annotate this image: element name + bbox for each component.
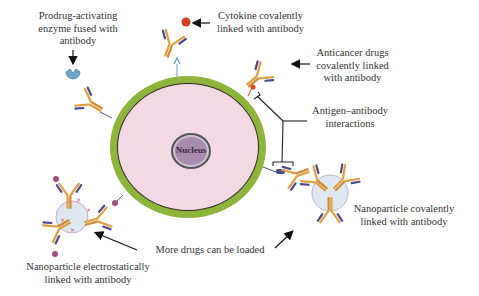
svg-text:×: × [70,226,75,233]
label-nanoparticle-electrostatic: Nanoparticle electrostatically linked wi… [18,261,158,286]
label-prodrug-enzyme: Prodrug-activating enzyme fused with ant… [28,10,128,48]
cytokine-antibody [153,18,210,78]
svg-text:×: × [60,216,65,223]
anticancer-drug-antibody [238,58,310,96]
nanoparticle-electrostatic: × × × × [40,176,137,257]
nucleus-label: Nucleus [171,145,211,155]
cytokine-icon [182,18,191,27]
label-antigen-antibody: Antigen–antibody interactions [305,105,395,130]
cell-surface-antibody-right [263,157,314,192]
svg-text:×: × [86,206,91,213]
label-anticancer-drugs: Anticancer drugs covalently linked with … [305,47,400,85]
enzyme-icon [66,69,80,79]
label-more-drugs: More drugs can be loaded [140,244,280,257]
diagram-canvas: × × × × Prodrug-activating enzyme fused … [0,0,479,296]
svg-text:×: × [76,196,81,203]
prodrug-enzyme-antibody [66,50,112,122]
label-nanoparticle-covalent: Nanoparticle covalently linked with anti… [348,203,460,228]
label-cytokine: Cytokine covalently linked with antibody [213,10,308,35]
